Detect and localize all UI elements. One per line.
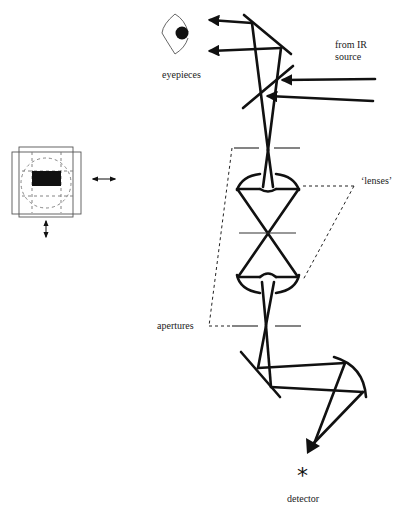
lower-lens <box>237 274 299 294</box>
beamsplitter <box>243 66 293 108</box>
eyepieces-label: eyepieces <box>162 69 201 80</box>
upper-lens <box>237 174 299 192</box>
ir-source-label-line1: from IR <box>335 39 367 50</box>
aperture-slit-icon <box>12 147 81 217</box>
eye-icon <box>162 14 189 54</box>
ir-microscope-optical-diagram: * eyepieces from IR source ‘lenses’ aper… <box>0 0 397 507</box>
beams-to-curved-mirror <box>258 363 363 392</box>
asterisk-icon: * <box>297 463 308 488</box>
beam-to-upper-lens <box>263 150 273 187</box>
apertures-label: apertures <box>157 320 194 331</box>
detector-label: detector <box>287 493 320 504</box>
beam-to-lower-aperture <box>262 282 274 325</box>
lenses-label: ‘lenses’ <box>361 175 392 186</box>
beams-to-detector <box>306 363 363 454</box>
ir-source-beams <box>268 79 375 101</box>
apertures-leader <box>209 148 232 326</box>
ir-source-label-line2: source <box>335 51 362 62</box>
lenses-leader <box>303 186 354 280</box>
